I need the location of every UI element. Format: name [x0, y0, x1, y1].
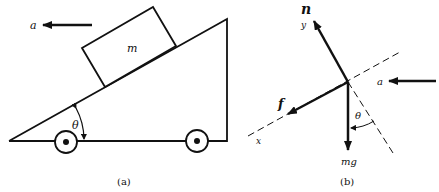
friction-label: f: [277, 96, 286, 111]
angle-arc-b: [351, 121, 374, 128]
friction-arrow: [288, 82, 348, 114]
figure-canvas: a m θ (a) n y f x: [0, 0, 439, 192]
normal-force-arrow: [314, 21, 348, 82]
acceleration-label-b: a: [377, 76, 383, 87]
wheel-right: [186, 130, 208, 152]
figure-b: n y f x mg θ a (b): [248, 1, 436, 187]
wheel-left: [55, 131, 77, 153]
figure-a: a m θ (a): [9, 7, 227, 187]
y-axis-label: y: [300, 20, 307, 30]
caption-b: (b): [340, 176, 354, 187]
acceleration-label-a: a: [30, 19, 37, 32]
block-label: m: [127, 42, 137, 55]
weight-label: mg: [341, 156, 357, 167]
normal-force-label: n: [301, 1, 311, 17]
caption-a: (a): [117, 176, 131, 187]
angle-label-b: θ: [355, 110, 361, 121]
x-axis-label: x: [256, 136, 261, 146]
angle-label-a: θ: [72, 119, 79, 132]
